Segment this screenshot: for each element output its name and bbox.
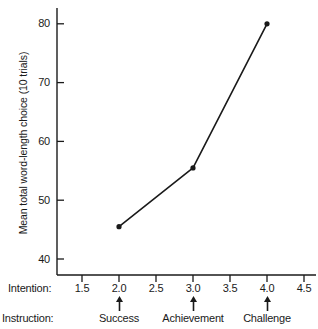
intention-row-label: Intention: xyxy=(8,283,51,294)
instruction-label: Challenge xyxy=(222,313,312,324)
y-tick-label: 40 xyxy=(24,254,50,265)
x-tick-label: 4.5 xyxy=(287,283,318,294)
x-tick-label: 1.5 xyxy=(65,283,99,294)
chart-figure: Mean total word-length choice (10 trials… xyxy=(0,0,318,329)
data-points xyxy=(116,21,269,229)
x-tick-label: 4.0 xyxy=(250,283,284,294)
plot-canvas xyxy=(0,0,318,329)
x-tick-label: 2.5 xyxy=(139,283,173,294)
y-tick-label: 60 xyxy=(24,136,50,147)
y-tick-label: 70 xyxy=(24,77,50,88)
y-tick-label: 80 xyxy=(24,18,50,29)
x-tick-label: 3.0 xyxy=(176,283,210,294)
data-line xyxy=(119,24,267,227)
instruction-row-label: Instruction: xyxy=(2,313,53,324)
y-axis-ticks xyxy=(57,0,64,259)
x-axis-ticks xyxy=(82,275,304,282)
x-tick-label: 2.0 xyxy=(102,283,136,294)
data-point xyxy=(116,224,121,229)
data-point xyxy=(190,165,195,170)
y-tick-label: 50 xyxy=(24,195,50,206)
x-tick-label: 3.5 xyxy=(213,283,247,294)
data-point xyxy=(264,21,269,26)
